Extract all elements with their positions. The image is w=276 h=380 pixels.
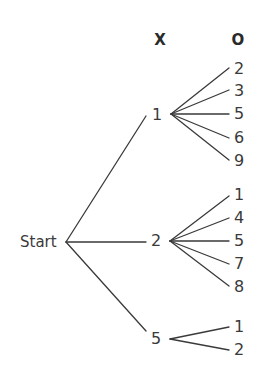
leaf-o-2-4: 8 [234,279,244,295]
edge-x1-to-o6 [171,114,229,138]
root-node-start: Start [20,234,57,250]
leaf-o-2-2: 5 [234,233,244,249]
edge-x5-to-o2 [170,339,229,350]
edge-x2-to-o7 [170,241,229,264]
leaf-o-1-2: 5 [234,106,244,122]
edge-x1-to-o2 [171,68,229,114]
column-header-o: O [232,33,245,48]
edge-x5-to-o1 [170,327,229,339]
leaf-o-2-1: 4 [234,210,244,226]
leaf-o-1-3: 6 [234,130,244,146]
leaf-o-1-4: 9 [234,153,244,169]
edge-x1-to-o3 [171,90,229,114]
edge-start-to-x5 [66,242,146,331]
leaf-o-2-0: 1 [234,187,244,203]
leaf-o-1-0: 2 [234,61,244,77]
edge-x2-to-o8 [170,241,229,286]
node-x-2: 2 [151,233,161,249]
node-x-1: 1 [152,107,162,123]
node-x-5: 5 [151,331,161,347]
leaf-o-3-1: 2 [234,342,244,358]
edge-x2-to-o4 [170,218,229,241]
leaf-o-3-0: 1 [234,319,244,335]
leaf-o-1-1: 3 [234,83,244,99]
edge-x1-to-o9 [171,114,229,160]
edge-start-to-x1 [66,116,146,242]
leaf-o-2-3: 7 [234,256,244,272]
column-header-x: X [154,33,166,48]
edge-x2-to-o1 [170,196,229,241]
